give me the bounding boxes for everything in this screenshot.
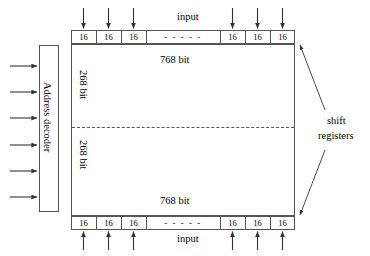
bottom-register-cell: 16 <box>270 217 295 230</box>
top-register-cell: 16 <box>270 31 295 44</box>
address-decoder-label: Address decoder <box>42 82 53 152</box>
top-register-cell: 16 <box>121 31 146 44</box>
bottom-register-ellipsis: - - - - - <box>146 217 220 230</box>
address-decoder-input-arrows <box>10 66 37 197</box>
diagram-canvas: Address decoder input 16 16 16 - - - - -… <box>0 0 370 256</box>
top-register-cell: 16 <box>220 31 245 44</box>
bottom-register-cell: 16 <box>220 217 245 230</box>
top-register-ellipsis: - - - - - <box>146 31 220 44</box>
top-register-cell: 16 <box>96 31 121 44</box>
shift-registers-label-line2: registers <box>318 131 354 142</box>
memory-array-box <box>71 44 295 216</box>
top-register-cell: 16 <box>245 31 270 44</box>
array-bottom-width-label: 768 bit <box>160 196 189 207</box>
bottom-input-label: input <box>177 234 199 245</box>
array-upper-height-label: 268 bit <box>78 70 89 99</box>
bottom-register-cell: 16 <box>121 217 146 230</box>
bottom-register-cell: 16 <box>71 217 96 230</box>
bottom-register-cell: 16 <box>245 217 270 230</box>
top-input-label: input <box>177 12 199 23</box>
array-lower-height-label: 268 bit <box>78 140 89 169</box>
bottom-register-cell: 16 <box>96 217 121 230</box>
array-top-width-label: 768 bit <box>160 55 189 66</box>
shift-registers-label-line1: shift <box>327 116 346 127</box>
top-register-cell: 16 <box>71 31 96 44</box>
array-midline <box>72 127 294 128</box>
